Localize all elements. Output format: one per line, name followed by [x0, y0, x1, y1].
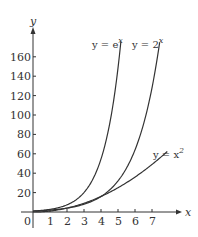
curve-pow2 — [33, 42, 160, 211]
y-tick-label: 120 — [10, 90, 31, 103]
y-tick-label: 20 — [17, 187, 31, 200]
y-tick-label: 160 — [10, 51, 31, 64]
x-tick-label: 7 — [149, 215, 156, 228]
y-axis-label: y — [29, 15, 37, 28]
curve-exp — [33, 41, 121, 211]
curve-label-square: y = x2 — [152, 146, 184, 160]
x-axis-arrow-icon — [176, 210, 182, 215]
x-tick-label: 5 — [115, 215, 122, 228]
curves — [33, 41, 167, 212]
curve-label-exp: y = ex — [91, 36, 123, 50]
x-axis-label: x — [185, 206, 192, 219]
y-tick-label: 140 — [10, 70, 31, 83]
y-tick-label: 40 — [17, 167, 31, 180]
y-tick-label: 60 — [17, 148, 31, 161]
x-tick-label: 6 — [132, 215, 139, 228]
chart: xy0123456720406080100120140160 y = exy =… — [0, 0, 198, 237]
x-tick-label: 4 — [98, 215, 105, 228]
x-tick-label: 0 — [24, 215, 31, 228]
x-tick-label: 1 — [47, 215, 54, 228]
y-tick-label: 80 — [17, 128, 31, 141]
y-tick-label: 100 — [10, 109, 31, 122]
x-tick-label: 2 — [64, 215, 71, 228]
x-tick-label: 3 — [81, 215, 88, 228]
y-axis-arrow-icon — [31, 27, 36, 34]
